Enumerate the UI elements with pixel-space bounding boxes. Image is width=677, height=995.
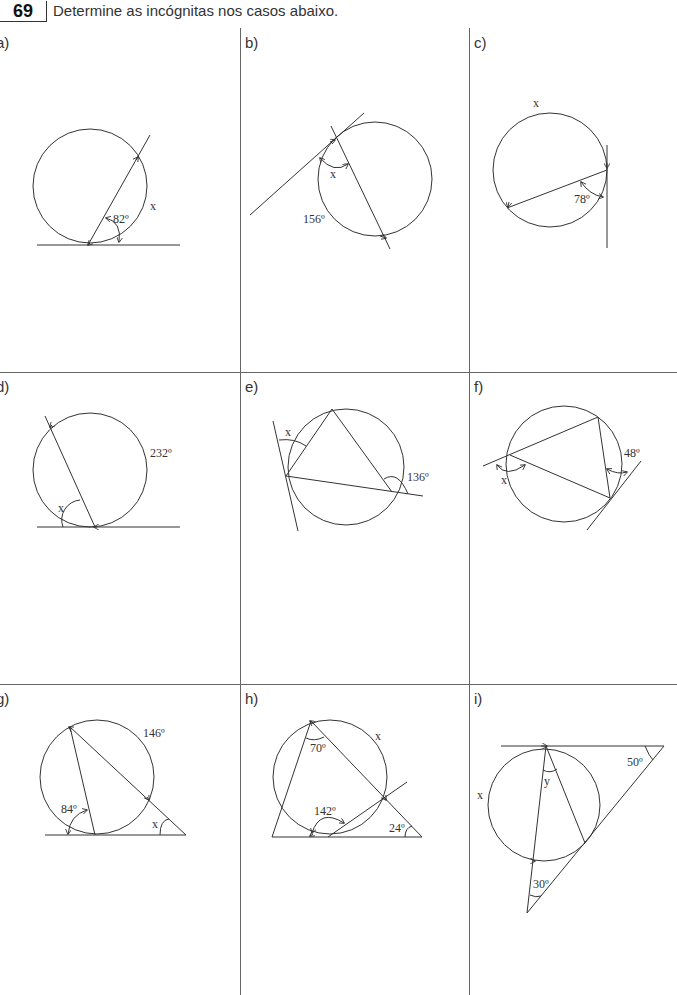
- geometry-figures: 82º x x 156º 78º x x 232º: [0, 0, 677, 995]
- figure-f: x 48º: [483, 406, 641, 530]
- arc-label-d: 232º: [150, 446, 172, 460]
- unknown-label-b: x: [330, 167, 336, 181]
- angle-label-e: 136º: [407, 470, 429, 484]
- figure-e: x 136º: [273, 409, 429, 531]
- angle-label-g: 84º: [61, 802, 77, 816]
- figure-g: 84º 146º x: [40, 720, 186, 835]
- figure-b: x 156º: [250, 113, 432, 249]
- unknown-label-h: x: [375, 729, 381, 743]
- angle-label-c: 78º: [574, 192, 590, 206]
- angle-right-label-i: 50º: [627, 755, 643, 769]
- unknown-y-label-i: y: [544, 774, 550, 788]
- angle-right-label-h: 24º: [389, 821, 405, 835]
- figure-d: x 232º: [33, 413, 180, 527]
- arc-label-g: 146º: [143, 726, 165, 740]
- unknown-label-e: x: [285, 425, 291, 439]
- angle-mid-label-h: 142º: [314, 804, 336, 818]
- figure-a: 82º x: [33, 129, 180, 245]
- unknown-label-d: x: [58, 501, 64, 515]
- unknown-x-label-i: x: [477, 788, 483, 802]
- angle-bottom-label-i: 30º: [533, 877, 549, 891]
- unknown-label-f: x: [501, 473, 507, 487]
- angle-top-label-h: 70º: [310, 741, 326, 755]
- angle-label-f: 48º: [624, 446, 640, 460]
- figure-h: 70º 142º 24º x: [272, 720, 422, 837]
- figure-i: y 50º 30º x: [477, 746, 664, 913]
- unknown-label-a: x: [150, 199, 156, 213]
- angle-label-a: 82º: [113, 212, 129, 226]
- unknown-label-c: x: [533, 96, 539, 110]
- arc-label-b: 156º: [303, 212, 325, 226]
- unknown-label-g: x: [152, 817, 158, 831]
- figure-c: 78º x: [493, 96, 607, 248]
